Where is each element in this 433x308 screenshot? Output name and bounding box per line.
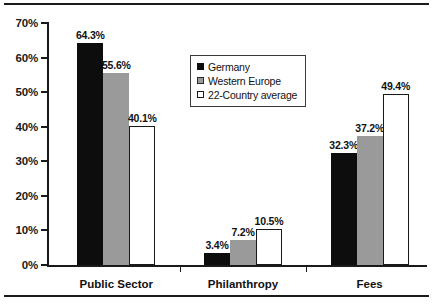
y-axis-tick-label: 60%: [16, 52, 38, 64]
chart-legend: GermanyWestern Europe22-Country average: [190, 55, 306, 107]
bar-value-label: 7.2%: [231, 226, 254, 238]
bottom-horizontal-rule: [4, 295, 429, 297]
bar-value-label: 3.4%: [205, 239, 228, 251]
y-axis-tick: [41, 91, 47, 93]
bar: [77, 43, 103, 265]
y-axis-tick-label: 40%: [16, 121, 38, 133]
bar: [383, 94, 409, 265]
y-axis-tick-label: 30%: [16, 155, 38, 167]
y-axis-tick-label: 50%: [16, 86, 38, 98]
y-axis-tick: [41, 22, 47, 24]
legend-item: Germany: [197, 60, 299, 73]
x-axis-category-label: Philanthropy: [208, 278, 278, 290]
y-axis-tick-label: 0%: [22, 259, 38, 271]
legend-item: 22-Country average: [197, 88, 299, 101]
legend-swatch-icon: [197, 91, 204, 98]
legend-swatch-icon: [197, 77, 204, 84]
y-axis-tick: [41, 264, 47, 266]
x-axis-group-separator: [306, 265, 307, 272]
y-axis-line: [47, 22, 49, 267]
legend-swatch-icon: [197, 63, 204, 70]
bar-value-label: 10.5%: [255, 215, 284, 227]
legend-item-label: Germany: [208, 61, 250, 73]
bar: [256, 229, 282, 265]
y-axis-tick: [41, 57, 47, 59]
bar: [204, 253, 230, 265]
bar: [129, 126, 155, 265]
bar: [331, 153, 357, 265]
bar: [103, 73, 129, 265]
x-axis-category-label: Public Sector: [80, 278, 154, 290]
bar: [230, 240, 256, 265]
x-axis-group-separator: [180, 265, 181, 272]
y-axis-tick: [41, 229, 47, 231]
y-axis-tick-label: 10%: [16, 224, 38, 236]
x-axis-category-label: Fees: [357, 278, 383, 290]
y-axis-tick: [41, 160, 47, 162]
y-axis-tick-label: 70%: [16, 17, 38, 29]
bar-value-label: 37.2%: [355, 122, 384, 134]
bar-value-label: 49.4%: [381, 80, 410, 92]
bar-value-label: 64.3%: [76, 29, 105, 41]
bar-value-label: 32.3%: [329, 139, 358, 151]
legend-item-label: 22-Country average: [208, 89, 297, 101]
x-axis-line: [47, 265, 427, 267]
y-axis-tick: [41, 126, 47, 128]
bar: [357, 136, 383, 265]
legend-item-label: Western Europe: [208, 75, 281, 87]
bar-value-label: 55.6%: [102, 59, 131, 71]
y-axis-tick-label: 20%: [16, 190, 38, 202]
bar-value-label: 40.1%: [128, 112, 157, 124]
legend-item: Western Europe: [197, 74, 299, 87]
bar-chart-figure: 0%10%20%30%40%50%60%70% 64.3%55.6%40.1%3…: [0, 0, 433, 308]
y-axis-tick: [41, 195, 47, 197]
top-horizontal-rule: [4, 3, 429, 5]
